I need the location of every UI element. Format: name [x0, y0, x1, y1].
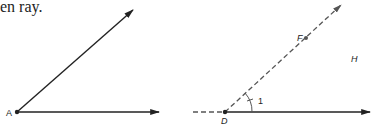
- label-d: D: [221, 116, 228, 126]
- label-h: H: [351, 54, 358, 64]
- figure-angle-a: A: [6, 10, 159, 118]
- angle-arc: [245, 93, 252, 112]
- figure-angle-d: D F H 1: [193, 5, 370, 126]
- label-f: F: [297, 33, 303, 43]
- geometry-diagram: A D F H 1: [0, 0, 373, 128]
- label-angle-1: 1: [258, 96, 263, 106]
- ray-a-diagonal: [17, 10, 133, 112]
- vertex-d-point: [223, 110, 227, 114]
- point-f: [304, 36, 308, 40]
- label-a: A: [6, 108, 12, 118]
- ray-d-dashed: [225, 5, 341, 112]
- vertex-a-point: [15, 110, 19, 114]
